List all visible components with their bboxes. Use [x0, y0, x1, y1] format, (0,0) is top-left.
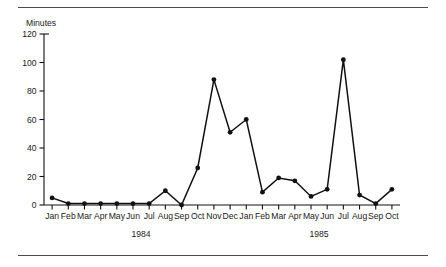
year-label: 1984: [132, 229, 151, 239]
figure-container: 020406080100120 JanFebMarAprMayJunJulAug…: [0, 0, 446, 267]
x-tick-label: May: [303, 211, 320, 221]
y-tick-label: 120: [22, 29, 37, 39]
x-tick-label: Aug: [158, 211, 174, 221]
data-point-marker: [179, 203, 184, 208]
data-point-marker: [325, 187, 330, 192]
data-point-marker: [260, 190, 265, 195]
y-tick-label: 20: [27, 172, 37, 182]
data-point-marker: [212, 77, 217, 82]
x-tick-label: Jul: [338, 211, 349, 221]
data-point-marker: [357, 193, 362, 198]
x-tick-label: Feb: [255, 211, 270, 221]
y-tick-label: 60: [27, 115, 37, 125]
data-point-marker: [163, 188, 168, 193]
x-tick-label: May: [109, 211, 126, 221]
x-tick-label: Sep: [174, 211, 190, 221]
x-tick-label: Aug: [352, 211, 368, 221]
x-tick-label: Mar: [271, 211, 286, 221]
y-tick-label: 100: [22, 58, 37, 68]
data-point-markers: [50, 57, 395, 207]
year-label: 1985: [310, 229, 329, 239]
series-polyline: [52, 60, 392, 205]
x-axis: [44, 205, 400, 210]
x-tick-label: Feb: [61, 211, 76, 221]
x-tick-label: Jan: [45, 211, 59, 221]
x-tick-label: Jun: [126, 211, 140, 221]
data-point-marker: [131, 201, 136, 206]
data-point-marker: [195, 166, 200, 171]
x-tick-label: Apr: [94, 211, 108, 221]
y-tick-label: 0: [32, 200, 37, 210]
data-point-marker: [390, 187, 395, 192]
chart-plot-area: 020406080100120 JanFebMarAprMayJunJulAug…: [0, 12, 446, 252]
y-tick-label: 80: [27, 86, 37, 96]
y-tick-label: 40: [27, 143, 37, 153]
x-tick-label: Jul: [144, 211, 155, 221]
data-point-marker: [373, 201, 378, 206]
data-point-marker: [292, 178, 297, 183]
x-tick-label: Dec: [222, 211, 238, 221]
x-tick-label: Sep: [368, 211, 384, 221]
data-point-marker: [114, 201, 119, 206]
x-tick-labels: JanFebMarAprMayJunJulAugSepOctNovDecJanF…: [45, 211, 399, 221]
y-axis-title: Minutes: [26, 18, 56, 28]
top-divider-rule: [18, 7, 428, 8]
data-point-marker: [244, 117, 249, 122]
y-axis: 020406080100120: [22, 29, 49, 210]
data-series-minutes: [52, 60, 392, 205]
data-point-marker: [341, 57, 346, 62]
data-point-marker: [66, 201, 71, 206]
data-point-marker: [228, 130, 233, 135]
x-tick-label: Mar: [77, 211, 92, 221]
data-point-marker: [50, 195, 55, 200]
data-point-marker: [82, 201, 87, 206]
data-point-marker: [276, 176, 281, 181]
data-point-marker: [309, 194, 314, 199]
x-tick-label: Oct: [385, 211, 399, 221]
data-point-marker: [98, 201, 103, 206]
line-chart: 020406080100120 JanFebMarAprMayJunJulAug…: [0, 12, 446, 252]
x-tick-label: Apr: [288, 211, 302, 221]
x-tick-label: Jan: [239, 211, 253, 221]
data-point-marker: [147, 201, 152, 206]
x-tick-label: Jun: [320, 211, 334, 221]
x-tick-label: Nov: [206, 211, 222, 221]
bottom-divider-rule: [18, 255, 428, 256]
year-group-labels: 19841985: [132, 229, 329, 239]
x-tick-label: Oct: [191, 211, 205, 221]
